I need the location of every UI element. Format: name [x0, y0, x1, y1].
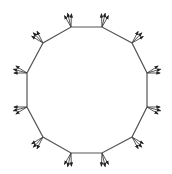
vertex-3-vectors: [147, 66, 161, 73]
vector-arrow-icon: [147, 66, 158, 73]
vertex-arrows-group: [14, 13, 161, 166]
vector-arrow-icon: [101, 14, 102, 27]
dodecagon-outline: [27, 27, 147, 153]
diagram-canvas: [0, 0, 172, 174]
vertex-8-vectors: [32, 137, 43, 149]
vertex-0-vectors: [65, 13, 72, 27]
vertex-11-vectors: [32, 31, 43, 43]
vertex-4-vectors: [147, 107, 161, 114]
vector-arrow-icon: [101, 153, 102, 166]
vertex-6-vectors: [101, 153, 108, 167]
vector-arrow-icon: [14, 69, 28, 73]
vertex-7-vectors: [65, 153, 72, 167]
vertex-10-vectors: [14, 66, 28, 73]
vertex-5-vectors: [132, 137, 143, 149]
vertex-2-vectors: [132, 32, 143, 44]
vector-arrow-icon: [147, 107, 161, 111]
vector-arrow-icon: [14, 107, 28, 111]
vector-arrow-icon: [147, 107, 158, 114]
dodecagon-diagram: [0, 0, 172, 174]
vertex-9-vectors: [14, 107, 28, 114]
vector-arrow-icon: [147, 69, 161, 73]
vertex-1-vectors: [101, 13, 108, 27]
vector-arrow-icon: [16, 107, 27, 114]
vector-arrow-icon: [16, 66, 27, 73]
